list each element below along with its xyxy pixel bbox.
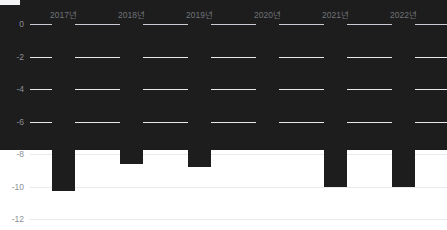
- y-tick-label--12: -12: [12, 215, 24, 224]
- gridline--4: [30, 89, 447, 90]
- category-label-2020: 2020년: [254, 11, 281, 20]
- category-label-2022: 2022년: [390, 11, 417, 20]
- gridline--8: [30, 154, 447, 155]
- gridline--10: [30, 187, 447, 188]
- y-tick-label--10: -10: [12, 182, 24, 191]
- category-label-2017: 2017년: [50, 11, 77, 20]
- bar-2021[interactable]: [324, 24, 347, 187]
- top-left-artifact: [0, 0, 20, 5]
- y-tick-label--6: -6: [16, 117, 24, 126]
- y-axis-labels: 0 -2 -4 -6 -8 -10 -12: [0, 24, 28, 219]
- gridline--6: [30, 122, 447, 123]
- category-label-2018: 2018년: [118, 11, 145, 20]
- bar-2018[interactable]: [120, 24, 143, 164]
- y-tick-label--4: -4: [16, 85, 24, 94]
- bar-chart: 0 -2 -4 -6 -8 -10 -12 2017년 2018년 2019년 …: [0, 0, 447, 150]
- bar-2020[interactable]: [256, 24, 279, 138]
- bar-2017[interactable]: [52, 24, 75, 191]
- y-tick-label--2: -2: [16, 52, 24, 61]
- category-label-2019: 2019년: [186, 11, 213, 20]
- category-label-2021: 2021년: [322, 11, 349, 20]
- y-tick-label--8: -8: [16, 150, 24, 159]
- bar-2022[interactable]: [392, 24, 415, 187]
- bar-2019[interactable]: [188, 24, 211, 167]
- plot-area: 2017년 2018년 2019년 2020년 2021년 2022년: [30, 24, 447, 219]
- gridline--12: [30, 219, 447, 220]
- gridline-0: [30, 24, 447, 25]
- y-tick-label-0: 0: [19, 20, 24, 29]
- gridline--2: [30, 57, 447, 58]
